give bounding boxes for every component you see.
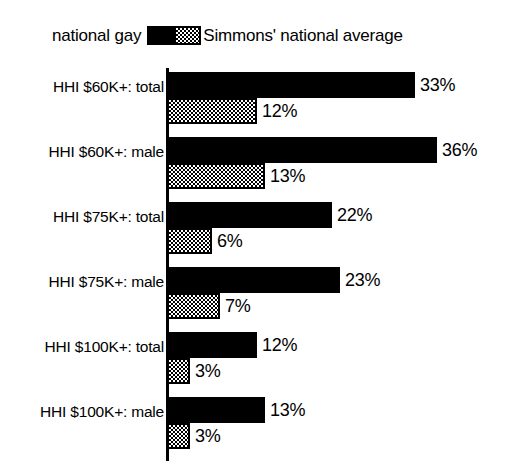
bar-value-label: 12%	[262, 336, 297, 354]
bar-value-label: 12%	[262, 102, 297, 120]
table-row: 7%	[167, 293, 250, 319]
plot-area: HHI $60K+: total 33% 12% HHI $60K+: male…	[0, 62, 524, 462]
table-row: 13%	[167, 397, 305, 423]
table-row: 22%	[167, 202, 372, 228]
chart-legend: national gay Simmons' national average	[0, 18, 524, 52]
category-label-hhi-75k-male: HHI $75K+: male	[0, 274, 164, 290]
legend-swatch-simmons-average-icon	[174, 26, 201, 45]
bar-national-gay	[167, 202, 332, 228]
table-row: 23%	[167, 267, 380, 293]
bar-national-gay	[167, 267, 340, 293]
category-label-hhi-60k-total: HHI $60K+: total	[0, 79, 164, 95]
legend-swatch-national-gay-icon	[147, 26, 174, 45]
bar-simmons-average	[167, 423, 190, 449]
bar-group: HHI $60K+: total 33% 12%	[0, 62, 524, 127]
category-label-hhi-60k-male: HHI $60K+: male	[0, 144, 164, 160]
bar-value-label: 3%	[195, 427, 220, 445]
bar-group: HHI $100K+: total 12% 3%	[0, 322, 524, 387]
bar-national-gay	[167, 72, 415, 98]
bar-simmons-average	[167, 228, 212, 254]
bar-simmons-average	[167, 98, 257, 124]
bar-value-label: 13%	[270, 167, 305, 185]
bar-value-label: 6%	[217, 232, 242, 250]
table-row: 3%	[167, 358, 220, 384]
bar-simmons-average	[167, 293, 220, 319]
bar-simmons-average	[167, 358, 190, 384]
bar-chart: national gay Simmons' national average H…	[0, 0, 524, 474]
bar-national-gay	[167, 397, 265, 423]
legend-swatch-group	[147, 26, 201, 45]
table-row: 13%	[167, 163, 305, 189]
bar-value-label: 33%	[420, 76, 455, 94]
table-row: 33%	[167, 72, 455, 98]
bar-value-label: 3%	[195, 362, 220, 380]
bar-national-gay	[167, 137, 437, 163]
legend-label-simmons-average: Simmons' national average	[203, 27, 403, 44]
bar-group: HHI $100K+: male 13% 3%	[0, 387, 524, 452]
bar-group: HHI $60K+: male 36% 13%	[0, 127, 524, 192]
category-label-hhi-100k-total: HHI $100K+: total	[0, 339, 164, 355]
table-row: 6%	[167, 228, 242, 254]
bar-national-gay	[167, 332, 257, 358]
bar-value-label: 13%	[270, 401, 305, 419]
bar-value-label: 22%	[337, 206, 372, 224]
bar-value-label: 7%	[225, 297, 250, 315]
bar-group: HHI $75K+: total 22% 6%	[0, 192, 524, 257]
bar-value-label: 36%	[442, 141, 477, 159]
table-row: 12%	[167, 98, 297, 124]
table-row: 36%	[167, 137, 477, 163]
table-row: 3%	[167, 423, 220, 449]
table-row: 12%	[167, 332, 297, 358]
category-label-hhi-100k-male: HHI $100K+: male	[0, 404, 164, 420]
bar-simmons-average	[167, 163, 265, 189]
category-label-hhi-75k-total: HHI $75K+: total	[0, 209, 164, 225]
bar-value-label: 23%	[345, 271, 380, 289]
bar-group: HHI $75K+: male 23% 7%	[0, 257, 524, 322]
legend-label-national-gay: national gay	[52, 27, 141, 44]
